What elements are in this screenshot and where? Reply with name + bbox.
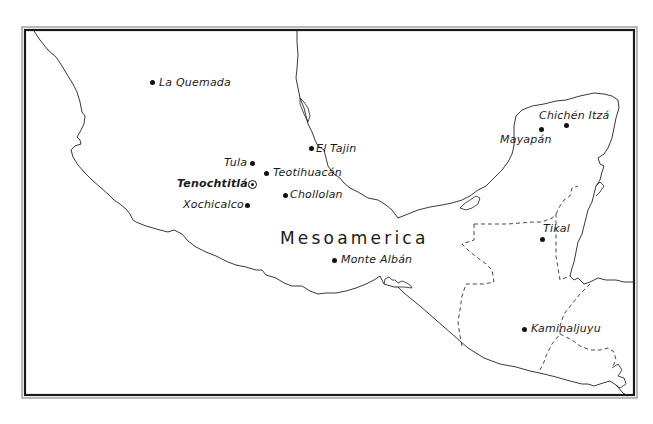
coastal-lagoon xyxy=(384,277,412,288)
site-marker-chollolan xyxy=(283,193,288,198)
site-label-chichen-itza: Chichén Itzá xyxy=(539,110,609,122)
pacific-coastline xyxy=(34,31,628,396)
site-label-tenochtitlan: Tenochtitlán xyxy=(177,178,256,190)
site-label-el-tajin: El Tajin xyxy=(316,143,357,155)
map-frame-inner xyxy=(25,30,634,395)
site-marker-teotihuacan xyxy=(264,171,269,176)
belize-border xyxy=(556,186,578,214)
fonseca-gulf xyxy=(612,364,626,388)
site-marker-monte-alban xyxy=(332,258,337,263)
capital-star-icon xyxy=(248,180,257,189)
site-marker-la-quemada xyxy=(150,80,155,85)
site-label-xochicalco: Xochicalco xyxy=(183,199,244,211)
terminos-lagoon xyxy=(460,196,480,210)
mesoamerica-map: La Quemada El Tajin Tula Teotihuacán Ten… xyxy=(0,0,653,424)
site-label-monte-alban: Monte Albán xyxy=(341,254,412,266)
site-marker-chichen-itza xyxy=(564,123,569,128)
site-label-mayapan: Mayapán xyxy=(500,134,552,146)
site-label-la-quemada: La Quemada xyxy=(159,77,231,89)
site-label-kaminaljuyu: Kaminaljuyu xyxy=(531,323,601,335)
site-marker-xochicalco xyxy=(245,203,250,208)
site-label-teotihuacan: Teotihuacán xyxy=(273,167,342,179)
site-marker-tula xyxy=(250,161,255,166)
mexico-guatemala-border xyxy=(458,224,494,346)
site-marker-kaminaljuyu xyxy=(522,327,527,332)
site-marker-tikal xyxy=(540,237,545,242)
site-marker-el-tajin xyxy=(309,146,314,151)
site-marker-mayapan xyxy=(539,127,544,132)
map-graphic xyxy=(0,0,653,424)
site-label-tula: Tula xyxy=(224,157,247,169)
region-title: Mesoamerica xyxy=(280,228,429,248)
map-frame-outer xyxy=(22,27,637,398)
site-label-tikal: Tikal xyxy=(543,223,570,235)
honduras-salvador-border xyxy=(560,334,616,368)
site-label-chollolan: Chollolan xyxy=(290,189,343,201)
